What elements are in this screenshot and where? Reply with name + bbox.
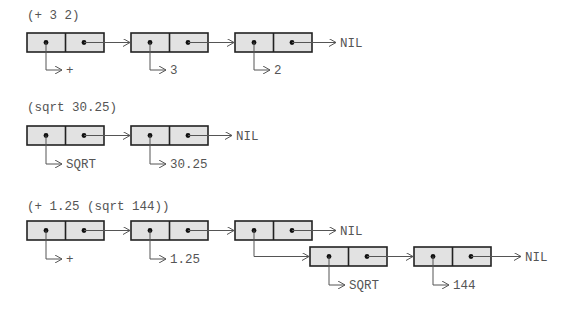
atom-label: + [66,253,74,267]
atom-label: 144 [453,279,476,293]
atom-label: 1.25 [170,253,200,267]
nil-label: NIL [340,225,363,239]
expression-label: (+ 1.25 (sqrt 144)) [27,200,170,214]
atom-label: 2 [274,64,282,78]
atom-label: SQRT [349,279,380,293]
atom-label: + [66,64,74,78]
atom-label: 3 [170,64,178,78]
nil-label: NIL [525,251,548,265]
cons-cell-diagram: (+ 3 2)+32NIL(sqrt 30.25)SQRT30.25NIL(+ … [0,0,574,309]
atom-label: SQRT [66,158,97,172]
expression-label: (sqrt 30.25) [27,101,117,115]
atom-label: 30.25 [170,158,208,172]
expression-label: (+ 3 2) [27,9,80,23]
nil-label: NIL [236,130,259,144]
nil-label: NIL [340,37,363,51]
